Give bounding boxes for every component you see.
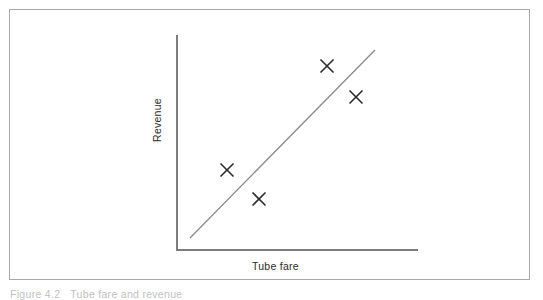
figure-caption-text: Tube fare and revenue <box>70 288 182 300</box>
y-axis-label-text: Revenue <box>151 98 163 142</box>
figure-frame <box>9 9 530 280</box>
y-axis-label: Revenue <box>151 98 163 142</box>
figure-caption: Figure 4.2Tube fare and revenue <box>10 288 182 300</box>
figure-caption-number: Figure 4.2 <box>10 288 60 300</box>
x-axis-label: Tube fare <box>252 260 299 272</box>
